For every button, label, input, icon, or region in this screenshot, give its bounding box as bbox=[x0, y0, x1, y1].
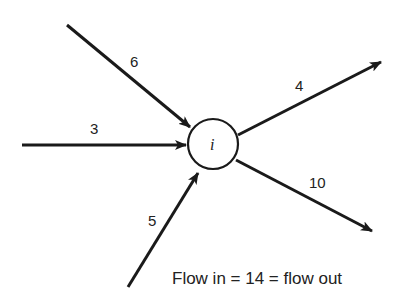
flow-conservation-diagram: i 6 3 5 4 10 Flow in = 14 = flow out bbox=[0, 0, 409, 304]
edge-label-out-10: 10 bbox=[309, 174, 326, 191]
edge-label-out-4: 4 bbox=[295, 77, 303, 94]
arrow-out-4 bbox=[238, 62, 381, 135]
edge-label-in-5: 5 bbox=[148, 212, 156, 229]
node-label: i bbox=[210, 136, 214, 153]
edge-label-in-3: 3 bbox=[90, 120, 98, 137]
arrow-in-6 bbox=[67, 25, 190, 127]
caption: Flow in = 14 = flow out bbox=[172, 269, 342, 288]
edge-label-in-6: 6 bbox=[130, 53, 138, 70]
arrow-out-10 bbox=[236, 160, 372, 231]
